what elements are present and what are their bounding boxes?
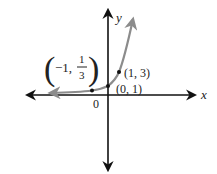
x-axis-label: x xyxy=(200,87,207,102)
point-0-1 xyxy=(106,84,110,88)
y-axis-label: y xyxy=(114,10,122,25)
label-point-neg1-third: ( −1, 1 3 ) xyxy=(44,50,99,88)
point-neg1-third xyxy=(90,89,94,93)
label-point-1-3: (1, 3) xyxy=(124,66,150,80)
fraction-denominator: 3 xyxy=(79,69,85,81)
exponential-graph: x y 0 (1, 3) (0, 1) ( −1, 1 3 ) xyxy=(0,0,217,174)
origin-label: 0 xyxy=(93,97,99,111)
point-1-3 xyxy=(117,70,121,74)
paren-open: ( xyxy=(44,50,55,88)
fraction-numerator: 1 xyxy=(79,53,85,65)
label-point-0-1: (0, 1) xyxy=(116,82,142,96)
paren-close: ) xyxy=(88,50,99,88)
label-x-value: −1, xyxy=(55,60,72,75)
